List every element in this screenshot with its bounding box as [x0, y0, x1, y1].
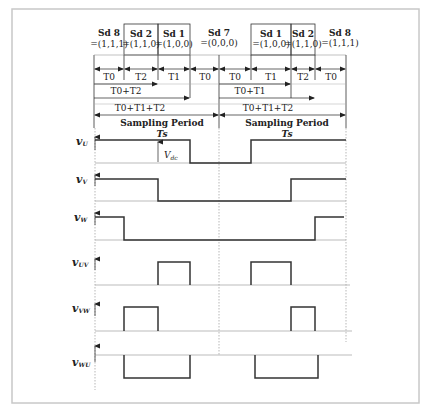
state-sd2a-vector: =(1,1,0): [122, 39, 159, 49]
vdc-label: Vdc: [164, 150, 178, 161]
state-sd8b-vector: =(1,1,1): [321, 38, 358, 48]
state-sd1a-vector: =(1,0,0): [155, 39, 192, 49]
figure-frame: [12, 9, 419, 403]
state-sd8b-name: Sd 8: [329, 28, 351, 38]
interval-label: T0: [103, 72, 115, 82]
waveform-vuv-2: [251, 262, 291, 285]
waveform-vvw-2: [291, 307, 315, 331]
waveforms: [95, 140, 346, 378]
waveform-vu: [95, 140, 346, 163]
signal-label-vu: vU: [76, 135, 88, 148]
signal-label-vvw: vVW: [72, 302, 91, 315]
cumulative-left-2: T0+T1+T2: [115, 103, 165, 113]
state-sd2b-name: Sd 2: [292, 29, 314, 39]
state-labels: Sd 8 =(1,1,1) Sd 2 =(1,1,0) Sd 1 =(1,0,0…: [90, 28, 358, 49]
period-label-left: Sampling Period: [120, 118, 204, 128]
signal-label-vv: vV: [76, 173, 88, 186]
state-sd7-vector: =(0,0,0): [200, 38, 237, 48]
baselines: [95, 163, 352, 355]
cumulative-left-1: T0+T2: [111, 86, 142, 96]
interval-label: T2: [297, 72, 309, 82]
state-sd2b-vector: =(1,1,0): [284, 39, 321, 49]
interval-label: T0: [199, 72, 211, 82]
waveform-vwu-1: [124, 355, 190, 378]
signal-labels: vU vV vW vUV vVW vWU: [72, 135, 91, 369]
signal-label-vwu: vWU: [72, 356, 91, 369]
interval-label: T0: [229, 72, 241, 82]
period-symbol-left: Ts: [157, 129, 168, 139]
state-sd7-name: Sd 7: [208, 28, 230, 38]
interval-label: T0: [325, 72, 337, 82]
waveform-vv: [95, 179, 346, 201]
guide-lines: [95, 128, 346, 390]
cumulative-right-1: T0+T1: [235, 86, 266, 96]
state-sd1b-name: Sd 1: [260, 29, 282, 39]
interval-label: T1: [265, 72, 277, 82]
period-symbol-right: Ts: [282, 129, 293, 139]
interval-label: T2: [135, 72, 147, 82]
waveform-vvw-1: [124, 307, 158, 331]
state-sd2a-name: Sd 2: [130, 29, 152, 39]
state-sd1a-name: Sd 1: [163, 29, 185, 39]
period-label-right: Sampling Period: [245, 118, 329, 128]
state-sd8a-name: Sd 8: [98, 28, 120, 38]
interval-labels: T0 T2 T1 T0 T0 T1 T2 T0: [103, 72, 337, 82]
waveform-vuv-1: [158, 262, 190, 285]
cumulative-right-2: T0+T1+T2: [243, 103, 293, 113]
waveform-vwu-2: [255, 355, 318, 378]
signal-label-vw: vW: [74, 211, 88, 224]
waveform-vw: [95, 217, 344, 240]
svpwm-timing-diagram: Sd 8 =(1,1,1) Sd 2 =(1,1,0) Sd 1 =(1,0,0…: [0, 0, 428, 413]
signal-label-vuv: vUV: [72, 256, 90, 269]
interval-label: T1: [168, 72, 180, 82]
